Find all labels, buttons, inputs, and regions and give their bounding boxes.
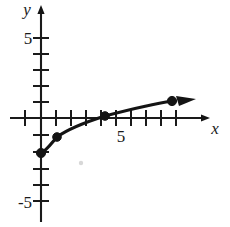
x-axis-arrowhead [201,114,210,121]
coordinate-plane: y x 5 -5 5 [0,0,230,227]
scan-artifact-speck [79,161,83,165]
y-tick-label-5: 5 [24,29,33,48]
y-axis-group [33,5,49,222]
marked-point-b [53,133,62,142]
curve-arrowhead [176,96,196,106]
x-tick-label-5: 5 [117,127,126,146]
marked-point-c [101,112,110,121]
marked-point-d [167,96,176,105]
y-axis-label: y [21,0,31,19]
math-graph-figure: y x 5 -5 5 [0,0,230,227]
y-axis-arrowhead [37,5,44,14]
x-axis-label: x [210,119,219,138]
marked-point-a [36,148,45,157]
square-root-curve [41,101,172,153]
y-tick-label-neg-5: -5 [18,193,32,212]
